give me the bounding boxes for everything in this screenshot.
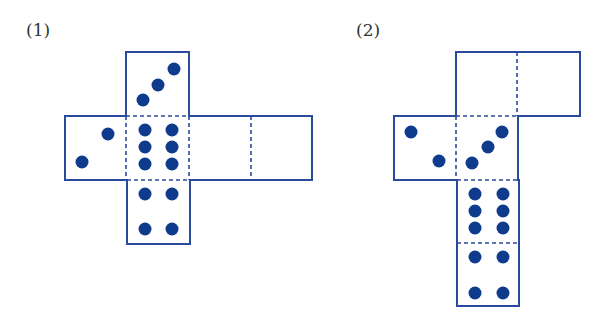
die-face-6 [139, 188, 179, 236]
die-face-5 [469, 188, 510, 235]
pip [497, 188, 510, 201]
dice-net-1 [65, 52, 312, 244]
pip [469, 251, 482, 264]
die-face-3 [139, 124, 179, 171]
dice-net-2 [394, 52, 580, 306]
die-face-2 [76, 128, 115, 169]
pip [152, 79, 165, 92]
pip [166, 141, 179, 154]
pip [166, 158, 179, 171]
pip [496, 126, 509, 139]
die-face-1 [137, 63, 181, 107]
pip [139, 158, 152, 171]
pip [139, 188, 152, 201]
pip [469, 205, 482, 218]
pip [168, 63, 181, 76]
pip [137, 94, 150, 107]
pip [102, 128, 115, 141]
pip [469, 188, 482, 201]
pip [166, 223, 179, 236]
die-face-4 [466, 126, 509, 170]
pip [405, 126, 418, 139]
die-face-3 [405, 126, 446, 168]
pip [433, 155, 446, 168]
pip [166, 124, 179, 137]
pip [497, 251, 510, 264]
dice-nets-canvas [0, 0, 612, 328]
pip [139, 141, 152, 154]
pip [139, 223, 152, 236]
net-outline [394, 52, 580, 306]
pip [139, 124, 152, 137]
pip [466, 157, 479, 170]
pip [497, 205, 510, 218]
pip [76, 156, 89, 169]
die-face-6 [469, 251, 510, 300]
pip [482, 141, 495, 154]
pip [166, 188, 179, 201]
pip [497, 287, 510, 300]
pip [497, 222, 510, 235]
pip [469, 222, 482, 235]
pip [469, 287, 482, 300]
